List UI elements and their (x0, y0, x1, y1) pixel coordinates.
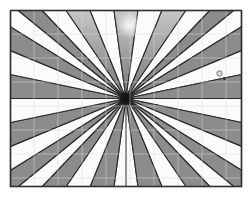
selection-handle[interactable] (217, 71, 222, 76)
center-blob (118, 91, 134, 107)
anchor-dot[interactable] (223, 77, 226, 80)
starburst-graphic (0, 0, 252, 200)
page (0, 0, 252, 200)
